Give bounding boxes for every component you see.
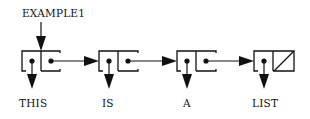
- car-label-2: IS: [102, 97, 114, 109]
- car-label-3: A: [183, 97, 191, 109]
- cons-cell-3: [177, 51, 254, 89]
- nil-slash-icon: [274, 51, 294, 71]
- car-label-1: THIS: [19, 97, 47, 109]
- cons-cell-4: [254, 51, 294, 89]
- cons-cell-1: [22, 51, 99, 89]
- head-pointer-arrow: [36, 22, 46, 51]
- cons-cell-2: [99, 51, 177, 89]
- car-label-4: LIST: [252, 97, 278, 109]
